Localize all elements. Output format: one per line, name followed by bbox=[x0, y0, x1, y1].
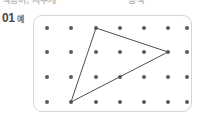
problem-number: 01 bbox=[2, 11, 15, 25]
grid-dot bbox=[94, 100, 98, 104]
geoboard-panel bbox=[33, 15, 192, 112]
grid-dot bbox=[45, 100, 49, 104]
geoboard-figure bbox=[34, 16, 193, 113]
grid-dot-group bbox=[45, 26, 189, 104]
grid-dot bbox=[185, 100, 189, 104]
grid-dot bbox=[45, 75, 49, 79]
grid-dot bbox=[69, 50, 73, 54]
grid-dot bbox=[185, 50, 189, 54]
problem-label: 01 예 bbox=[2, 11, 24, 25]
grid-dot bbox=[185, 26, 189, 30]
grid-dot bbox=[45, 26, 49, 30]
grid-dot bbox=[166, 26, 170, 30]
grid-dot bbox=[142, 26, 146, 30]
grid-dot bbox=[45, 50, 49, 54]
grid-dot bbox=[185, 75, 189, 79]
grid-dot bbox=[142, 50, 146, 54]
grid-dot bbox=[142, 75, 146, 79]
grid-dot bbox=[142, 100, 146, 104]
grid-dot bbox=[69, 75, 73, 79]
clipped-header-right-fragment: 공책 bbox=[128, 0, 144, 6]
grid-dot bbox=[118, 50, 122, 54]
triangle-shape bbox=[71, 28, 168, 102]
grid-dot bbox=[94, 50, 98, 54]
grid-dot bbox=[118, 100, 122, 104]
grid-dot bbox=[94, 75, 98, 79]
grid-dot bbox=[166, 75, 170, 79]
grid-dot bbox=[118, 26, 122, 30]
clipped-header-strip: 색종이, 지우개 공책 bbox=[0, 0, 200, 8]
example-tag: 예 bbox=[17, 13, 24, 24]
grid-dot bbox=[69, 26, 73, 30]
page-root: 색종이, 지우개 공책 01 예 bbox=[0, 0, 200, 117]
grid-dot bbox=[166, 100, 170, 104]
clipped-header-left-fragment: 색종이, 지우개 bbox=[2, 0, 57, 6]
